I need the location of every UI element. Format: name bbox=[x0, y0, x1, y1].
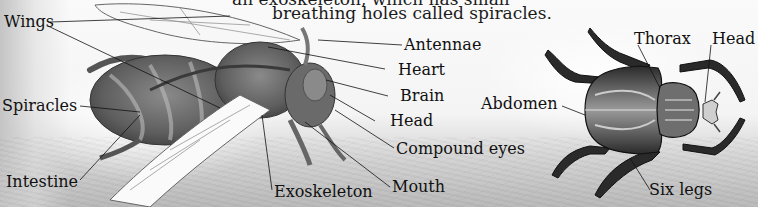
beetle bbox=[545, 28, 745, 198]
label-wings: Wings bbox=[4, 14, 54, 30]
wasp-compound-eye bbox=[303, 69, 327, 101]
wasp-upper-wing bbox=[95, 4, 300, 44]
label-heart: Heart bbox=[398, 62, 445, 78]
label-mouth: Mouth bbox=[392, 179, 445, 195]
insect-anatomy-diagram: an exoskeleton, which has small breathin… bbox=[0, 0, 758, 207]
label-head: Head bbox=[390, 113, 433, 129]
wasp-antenna bbox=[302, 28, 308, 65]
label-antennae: Antennae bbox=[404, 37, 481, 53]
label-six-legs: Six legs bbox=[649, 182, 712, 198]
wasp-leg bbox=[100, 140, 140, 158]
label-abdomen: Abdomen bbox=[481, 96, 558, 112]
wasp bbox=[48, 4, 402, 207]
label-intestine: Intestine bbox=[6, 174, 78, 190]
caption-line-2: breathing holes called spiracles. bbox=[272, 5, 552, 22]
label-compound-eyes: Compound eyes bbox=[396, 141, 525, 157]
label-brain: Brain bbox=[400, 88, 444, 104]
beetle-leg bbox=[552, 146, 610, 178]
label-thorax: Thorax bbox=[634, 31, 691, 47]
label-spiracles: Spiracles bbox=[2, 98, 77, 114]
label-exoskeleton: Exoskeleton bbox=[274, 184, 373, 200]
beetle-head bbox=[703, 100, 718, 124]
label-beetle-head: Head bbox=[712, 31, 755, 47]
wasp-leg bbox=[320, 125, 345, 160]
